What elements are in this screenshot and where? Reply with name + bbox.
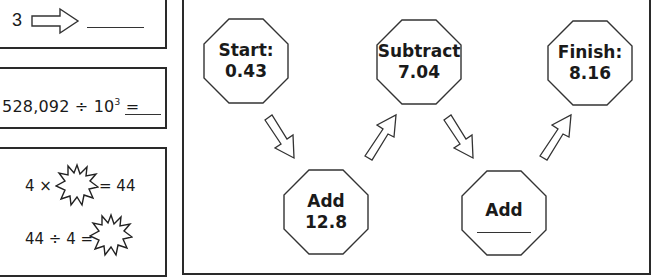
multiplication-left: 4 × xyxy=(25,177,52,195)
node-value: 12.8 xyxy=(283,212,369,233)
starburst-blank-icon[interactable] xyxy=(89,213,133,257)
node-title: Subtract xyxy=(376,41,462,62)
node-subtract: Subtract 7.04 xyxy=(376,19,462,105)
node-title: Finish: xyxy=(547,42,633,63)
node-label: Subtract 7.04 xyxy=(376,41,462,83)
node-value: 7.04 xyxy=(376,62,462,83)
down-right-arrow-icon xyxy=(262,112,302,162)
input-number: 3 xyxy=(12,10,22,31)
division-expression: 528,092 ÷ 103 = xyxy=(2,97,139,116)
node-answer-blank[interactable] xyxy=(477,232,531,233)
starburst-blank-icon[interactable] xyxy=(55,163,99,207)
multiplication-result: = 44 xyxy=(99,177,135,195)
node-label: Start: 0.43 xyxy=(203,40,289,82)
node-start: Start: 0.43 xyxy=(203,18,289,104)
node-title: Start: xyxy=(203,40,289,61)
problem-box-1 xyxy=(0,0,167,49)
node-value: 0.43 xyxy=(203,61,289,82)
node-title: Add xyxy=(461,200,547,221)
answer-blank-2[interactable] xyxy=(125,114,161,115)
answer-blank-1[interactable] xyxy=(87,27,144,28)
node-add-1: Add 12.8 xyxy=(283,169,369,255)
expression-base: 528,092 ÷ 10 xyxy=(2,97,115,116)
node-finish: Finish: 8.16 xyxy=(547,20,633,106)
up-right-arrow-icon xyxy=(360,112,400,162)
node-value: 8.16 xyxy=(547,63,633,84)
node-title: Add xyxy=(283,191,369,212)
node-label: Finish: 8.16 xyxy=(547,42,633,84)
node-label: Add xyxy=(461,200,547,221)
division-left: 44 ÷ 4 = xyxy=(25,230,93,248)
up-right-arrow-icon xyxy=(535,112,575,162)
node-add-2: Add xyxy=(461,170,547,256)
node-label: Add 12.8 xyxy=(283,191,369,233)
down-right-arrow-icon xyxy=(441,112,481,162)
right-arrow-icon xyxy=(30,7,82,35)
